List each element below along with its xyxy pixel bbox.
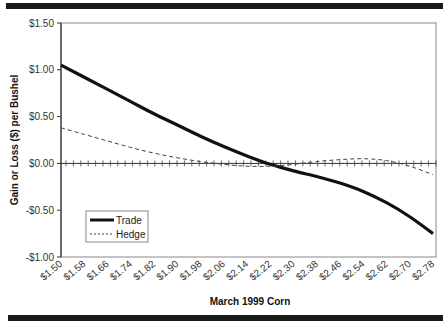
x-tick-label: $2.62	[364, 258, 391, 283]
x-axis-title: March 1999 Corn	[210, 296, 291, 307]
x-tick-label: $2.06	[201, 258, 228, 283]
x-tick-label: $1.74	[108, 258, 135, 283]
x-tick-label: $1.58	[61, 258, 88, 283]
x-tick-label: $1.98	[178, 258, 205, 283]
x-axis: $1.50$1.58$1.66$1.74$1.82$1.90$1.98$2.06…	[38, 258, 437, 283]
x-tick-label: $1.66	[85, 258, 112, 283]
y-tick-label: $1.50	[29, 18, 54, 29]
x-tick-label: $1.82	[131, 258, 158, 283]
x-tick-label: $2.70	[387, 258, 414, 283]
legend-trade-label: Trade	[116, 215, 142, 226]
y-tick-label: -$1.00	[26, 252, 55, 263]
chart: $1.50$1.00$0.50$0.00-$0.50-$1.00 $1.50$1…	[0, 0, 447, 326]
x-tick-label: $2.54	[340, 258, 367, 283]
x-tick-label: $1.90	[154, 258, 181, 283]
y-tick-label: $0.00	[29, 158, 54, 169]
y-axis-title: Gain or Loss ($) per Bushel	[9, 74, 20, 205]
x-tick-label: $2.14	[224, 258, 251, 283]
x-tick-label: $2.22	[247, 258, 274, 283]
x-tick-label: $2.78	[410, 258, 437, 283]
y-tick-label: $1.00	[29, 64, 54, 75]
x-tick-label: $2.30	[271, 258, 298, 283]
x-tick-label: $2.38	[294, 258, 321, 283]
legend: Trade Hedge	[86, 211, 148, 242]
y-tick-label: $0.50	[29, 111, 54, 122]
y-tick-label: -$0.50	[26, 205, 55, 216]
y-axis: $1.50$1.00$0.50$0.00-$0.50-$1.00	[26, 18, 61, 263]
x-tick-label: $2.46	[317, 258, 344, 283]
legend-hedge-label: Hedge	[116, 229, 146, 240]
